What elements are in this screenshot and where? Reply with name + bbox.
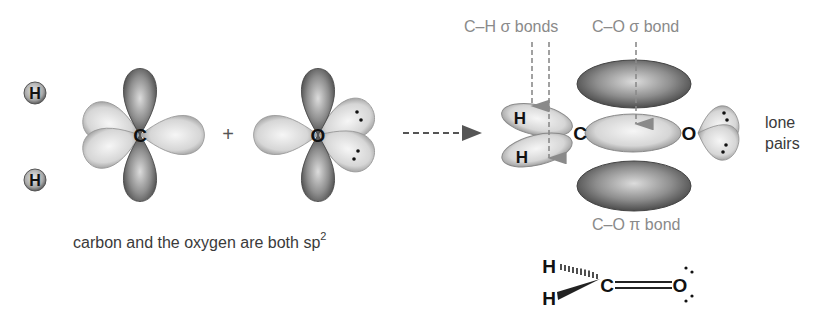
ch-sigma-label: C–H σ bonds xyxy=(464,18,558,35)
ch-sigma-bonds: H H xyxy=(498,98,575,173)
orbital-diagram: H H C + O carbon and the oxy xyxy=(0,0,825,334)
svg-text:H: H xyxy=(514,109,526,128)
lone-pairs-label-line1: lone xyxy=(765,114,795,131)
right-carbon-symbol: C xyxy=(573,123,587,144)
svg-text:C: C xyxy=(600,275,614,296)
lone-pairs-label-line2: pairs xyxy=(765,135,800,152)
pi-bond-lower-lobe xyxy=(577,161,691,211)
oxygen-symbol: O xyxy=(311,125,326,146)
svg-text:H: H xyxy=(29,85,41,102)
formaldehyde-structure: H H C O xyxy=(542,256,693,309)
oxygen-lone-pair-lobes xyxy=(692,102,744,165)
co-sigma-label: C–O σ bond xyxy=(592,18,679,35)
hydrogen-atom-2: H xyxy=(24,169,46,191)
right-oxygen-symbol: O xyxy=(682,123,697,144)
co-pi-label: C–O π bond xyxy=(592,216,680,233)
svg-text:H: H xyxy=(542,256,556,277)
pi-bond-upper-lobe xyxy=(577,60,691,108)
carbon-symbol: C xyxy=(133,125,147,146)
oxygen-sp2-orbitals: O xyxy=(254,69,381,202)
plus-sign: + xyxy=(222,123,234,145)
hybridization-caption: carbon and the oxygen are both sp2 xyxy=(73,230,326,251)
hydrogen-atom-1: H xyxy=(24,82,46,104)
svg-text:H: H xyxy=(29,172,41,189)
svg-text:H: H xyxy=(542,288,556,309)
carbon-sp2-orbitals: C xyxy=(77,69,204,202)
co-sigma-bond xyxy=(585,114,681,152)
svg-text:H: H xyxy=(516,148,528,167)
svg-text:O: O xyxy=(673,275,688,296)
